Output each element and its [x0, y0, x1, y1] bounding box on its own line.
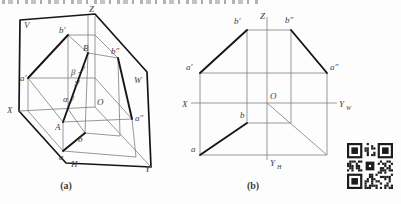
figure-b-caption: (b)	[247, 180, 259, 192]
plane-h-label: H	[70, 159, 78, 169]
angle-gamma-label: γ	[75, 77, 79, 87]
point-a-prime-label-a: a′	[20, 73, 28, 83]
plane-v-label: V	[24, 20, 31, 30]
plane-w-label: W	[134, 75, 143, 85]
axis-x-label-a: X	[6, 105, 13, 115]
figure-a: V Z b′ B b″ W a′ X O A a″ b a H Y β γ α …	[6, 4, 151, 192]
point-a-prime-label-b: a′	[186, 62, 194, 72]
cropped-text-line	[2, 0, 258, 4]
angle-beta-label: β	[70, 67, 76, 77]
axis-yh-label: Y	[270, 158, 276, 168]
construction-lines-b	[200, 30, 327, 155]
axes-b	[191, 17, 337, 160]
point-b-prime-label-a: b′	[59, 25, 67, 35]
axis-yw-subscript: W	[346, 105, 352, 111]
segment-AB	[63, 53, 88, 122]
page: V Z b′ B b″ W a′ X O A a″ b a H Y β γ α …	[0, 0, 401, 204]
point-a-dblprime-label-a: a″	[135, 113, 144, 123]
axis-yw-label: Y	[339, 99, 345, 109]
point-b-prime-label-b: b′	[234, 16, 242, 26]
axis-x-label-b: X	[181, 99, 188, 109]
figure-a-caption: (a)	[60, 180, 72, 192]
origin-label-b: O	[270, 91, 277, 101]
point-a-label-a: a	[59, 152, 64, 162]
point-b-label-a: b	[78, 134, 83, 144]
angle-alpha-label: α	[63, 94, 68, 104]
point-A-label: A	[54, 122, 61, 132]
point-a-dblprime-label-b: a″	[330, 62, 339, 72]
segment-a1b1-frontal-projection	[28, 35, 68, 78]
point-b-dblprime-label-b: b″	[285, 15, 294, 25]
point-a-label-b: a	[191, 144, 196, 154]
projection-diagrams: V Z b′ B b″ W a′ X O A a″ b a H Y β γ α …	[0, 0, 401, 204]
axis-z-label-b: Z	[260, 11, 266, 21]
point-B-label: B	[83, 43, 89, 53]
axis-yh-subscript: H	[276, 164, 282, 170]
axes-and-construction-lines	[19, 15, 151, 167]
point-b-label-b: b	[240, 110, 245, 120]
segment-ab-top-view	[200, 123, 247, 155]
segment-b2a2-side-view	[291, 30, 327, 73]
axis-z-label-a: Z	[89, 4, 95, 14]
segment-a2b2-profile-projection	[118, 58, 132, 119]
planes-outline	[19, 14, 151, 167]
point-b-dblprime-label-a: b″	[111, 46, 120, 56]
figure-b: Z b′ b″ a′ a″ X O Y W Y H b a (b)	[181, 11, 352, 192]
origin-label-a: O	[97, 97, 104, 107]
qr-code	[347, 143, 393, 189]
segment-a1b1-front-view	[200, 30, 247, 73]
